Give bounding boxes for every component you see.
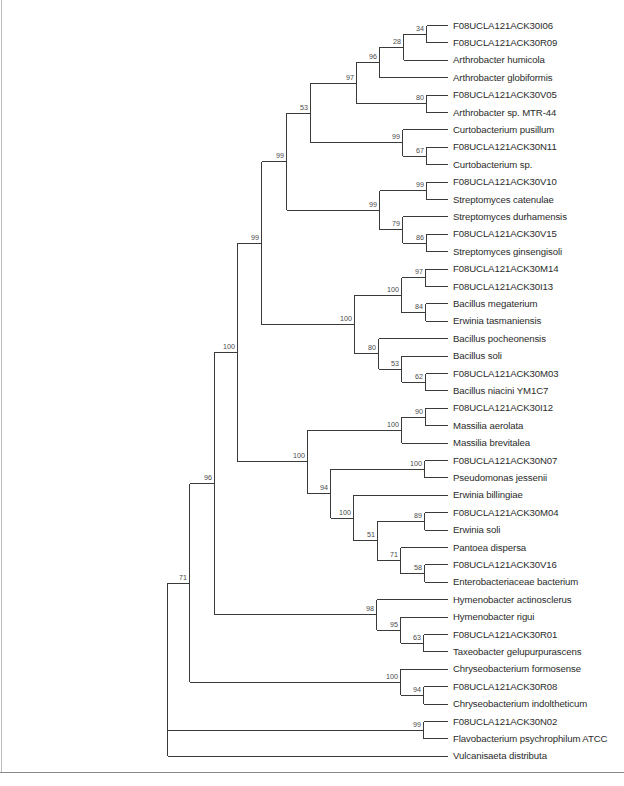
leaf-label: Pseudomonas jessenii <box>453 472 547 483</box>
leaf-label: Bacillus niacini YM1C7 <box>453 385 548 396</box>
branch-lines <box>168 26 448 757</box>
leaf-label: Erwinia tasmaniensis <box>453 315 541 326</box>
leaf-label: Arthrobacter sp. MTR-44 <box>453 107 557 118</box>
bootstrap-value: 100 <box>410 459 422 468</box>
bootstrap-value: 95 <box>390 620 398 629</box>
bootstrap-value: 100 <box>339 508 351 517</box>
leaf-label: Massilia brevitalea <box>453 437 531 448</box>
leaf-label: Arthrobacter globiformis <box>453 72 553 83</box>
bootstrap-value: 96 <box>369 52 377 61</box>
leaf-label: Bacillus soli <box>453 350 502 361</box>
bootstrap-value: 100 <box>386 672 398 681</box>
leaf-label: Streptomyces ginsengisoli <box>453 246 562 257</box>
leaf-label: Chryseobacterium indoltheticum <box>453 698 587 709</box>
bootstrap-value: 100 <box>340 314 352 323</box>
bootstrap-value: 62 <box>415 372 423 381</box>
bootstrap-value: 79 <box>392 219 400 228</box>
bootstrap-value: 94 <box>413 685 421 694</box>
leaf-label: F08UCLA121ACK30R08 <box>453 681 557 692</box>
leaf-label: Arthrobacter humicola <box>453 54 546 65</box>
bootstrap-value: 97 <box>415 267 423 276</box>
bootstrap-value: 96 <box>204 473 212 482</box>
bootstrap-values: 3428968097679953998679999997841006253801… <box>179 24 424 729</box>
leaf-label: Bacillus pocheonensis <box>453 333 546 344</box>
leaf-label: Bacillus megaterium <box>453 298 538 309</box>
bootstrap-value: 90 <box>415 407 423 416</box>
bootstrap-value: 94 <box>320 483 328 492</box>
leaf-label: F08UCLA121ACK30I13 <box>453 281 553 292</box>
bootstrap-value: 34 <box>416 24 424 33</box>
bootstrap-value: 53 <box>300 103 308 112</box>
leaf-label: Curtobacterium sp. <box>453 159 532 170</box>
leaf-label: F08UCLA121ACK30V10 <box>453 176 557 187</box>
tree-canvas: 3428968097679953998679999997841006253801… <box>0 0 624 786</box>
leaf-label: Flavobacterium psychrophilum ATCC <box>453 733 608 744</box>
bootstrap-value: 67 <box>416 146 424 155</box>
leaf-label: Erwinia billingiae <box>453 489 523 500</box>
bottom-divider <box>0 772 624 773</box>
bootstrap-value: 100 <box>387 285 399 294</box>
leaf-label: F08UCLA121ACK30N02 <box>453 716 557 727</box>
leaf-label: Pantoea dispersa <box>453 542 527 553</box>
leaf-label: F08UCLA121ACK30I12 <box>453 402 553 413</box>
leaf-label: F08UCLA121ACK30V16 <box>453 559 557 570</box>
leaf-label: F08UCLA121ACK30R09 <box>453 37 557 48</box>
bootstrap-value: 97 <box>346 73 354 82</box>
bootstrap-value: 63 <box>413 633 421 642</box>
leaf-label: Streptomyces catenulae <box>453 194 554 205</box>
bootstrap-value: 100 <box>223 342 235 351</box>
bootstrap-value: 80 <box>368 343 376 352</box>
bootstrap-value: 28 <box>393 37 401 46</box>
bootstrap-value: 99 <box>369 200 377 209</box>
leaf-label: F08UCLA121ACK30M04 <box>453 507 559 518</box>
bootstrap-value: 71 <box>179 573 187 582</box>
bootstrap-value: 86 <box>416 233 424 242</box>
leaf-label: Hymenobacter actinosclerus <box>453 594 572 605</box>
bootstrap-value: 84 <box>415 302 423 311</box>
bootstrap-value: 80 <box>416 93 424 102</box>
bootstrap-value: 71 <box>390 550 398 559</box>
leaf-label: Massilia aerolata <box>453 420 524 431</box>
leaf-label: Hymenobacter rigui <box>453 611 534 622</box>
bootstrap-value: 99 <box>276 151 284 160</box>
phylogenetic-tree-figure: 3428968097679953998679999997841006253801… <box>0 0 624 786</box>
leaf-label: Streptomyces durhamensis <box>453 211 567 222</box>
leaf-label: F08UCLA121ACK30V15 <box>453 228 557 239</box>
leaf-label: F08UCLA121ACK30I06 <box>453 20 553 31</box>
bootstrap-value: 100 <box>293 451 305 460</box>
bootstrap-value: 58 <box>414 563 422 572</box>
bootstrap-value: 99 <box>392 132 400 141</box>
leaf-label: F08UCLA121ACK30M03 <box>453 368 558 379</box>
leaf-label: F08UCLA121ACK30R01 <box>453 629 557 640</box>
leaf-label: F08UCLA121ACK30N07 <box>453 455 557 466</box>
leaf-label: F08UCLA121ACK30V05 <box>453 89 557 100</box>
bootstrap-value: 89 <box>414 511 422 520</box>
bootstrap-value: 100 <box>387 420 399 429</box>
leaf-label: Chryseobacterium formosense <box>453 663 581 674</box>
bootstrap-value: 98 <box>366 604 374 613</box>
bootstrap-value: 53 <box>391 359 399 368</box>
leaf-label: F08UCLA121ACK30M14 <box>453 263 559 274</box>
leaf-label: Curtobacterium pusillum <box>453 124 554 135</box>
leaf-label: F08UCLA121ACK30N11 <box>453 141 557 152</box>
leaf-label: Erwinia soli <box>453 524 500 535</box>
leaf-label: Taxeobacter gelupurpurascens <box>453 646 582 657</box>
bootstrap-value: 51 <box>367 530 375 539</box>
bootstrap-value: 99 <box>413 720 421 729</box>
leaf-label: Vulcanisaeta distributa <box>453 750 548 761</box>
bootstrap-value: 99 <box>251 233 259 242</box>
leaf-labels: F08UCLA121ACK30I06F08UCLA121ACK30R09Arth… <box>453 20 608 762</box>
leaf-label: Enterobacteriaceae bacterium <box>453 576 578 587</box>
bootstrap-value: 99 <box>416 180 424 189</box>
